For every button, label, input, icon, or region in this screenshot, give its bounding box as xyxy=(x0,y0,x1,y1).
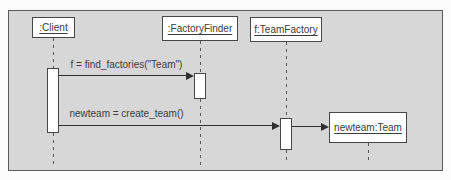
message-line-new-object xyxy=(292,126,321,127)
object-label-newteam: newteam:Team xyxy=(334,122,402,133)
message-label-find-factories: f = find_factories("Team") xyxy=(64,59,189,70)
lifeline-client-upper xyxy=(53,38,54,68)
object-box-teamfactory: f:TeamFactory xyxy=(250,17,322,42)
arrow-head-icon xyxy=(272,122,280,130)
activation-factoryfinder xyxy=(194,73,206,99)
arrow-head-icon xyxy=(186,72,194,80)
lifeline-teamfactory-lower xyxy=(286,150,287,163)
object-label-client: :Client xyxy=(39,22,67,33)
lifeline-factoryfinder-lower xyxy=(200,99,201,165)
lifeline-factoryfinder-upper xyxy=(200,41,201,73)
activation-client xyxy=(47,68,59,133)
object-box-factoryfinder: :FactoryFinder xyxy=(162,16,238,41)
arrow-head-icon xyxy=(321,123,329,131)
object-label-factoryfinder: :FactoryFinder xyxy=(168,23,232,34)
lifeline-newteam xyxy=(368,143,369,163)
message-label-create-team: newteam = create_team() xyxy=(64,108,189,119)
diagram-frame: f = find_factories("Team") newteam = cre… xyxy=(8,10,443,171)
object-box-client: :Client xyxy=(32,17,75,38)
lifeline-client-lower xyxy=(53,133,54,165)
lifeline-teamfactory-upper xyxy=(286,42,287,118)
object-box-newteam: newteam:Team xyxy=(329,112,407,143)
message-line-create-team xyxy=(59,125,272,126)
sequence-diagram-page: { "diagram": { "kind": "uml-sequence-dia… xyxy=(0,0,451,180)
object-label-teamfactory: f:TeamFactory xyxy=(254,24,317,35)
activation-teamfactory xyxy=(280,118,292,150)
message-line-find-factories xyxy=(59,75,186,76)
